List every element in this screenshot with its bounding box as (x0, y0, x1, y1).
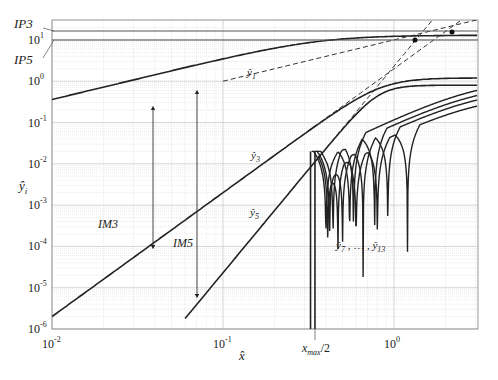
y-tick-label: 10-5 (28, 279, 47, 295)
y-tick-label: 10-4 (28, 237, 47, 253)
xmax-label: xmax/2 (301, 341, 330, 357)
y-tick-label: 100 (28, 72, 44, 88)
x-tick-label: 100 (384, 335, 400, 351)
x-tick-label: 10-1 (213, 335, 232, 351)
grid-lines (52, 20, 478, 329)
y1-label: ŷ1 (246, 66, 256, 81)
ip5-intercept-point (450, 30, 455, 35)
y5-label: ŷ5 (249, 206, 259, 221)
y-tick-label: 101 (28, 31, 44, 47)
x-axis-label: x̂ (238, 348, 245, 363)
curve-y3 (52, 78, 477, 317)
curve-y1 (52, 35, 477, 99)
intermodulation-chart: IP3 IP5 IM3 IM5 ŷ1 ŷ3 ŷ5 ŷ7 , … , ŷ13 ŷi… (0, 0, 498, 380)
ip3-label: IP3 (13, 16, 33, 31)
ip5-label: IP5 (13, 52, 33, 67)
x-tick-label: 10-2 (42, 335, 61, 351)
y-tick-label: 10-1 (28, 114, 47, 130)
y-tick-label: 10-3 (28, 196, 47, 212)
im5-label: IM5 (172, 236, 193, 250)
y-axis-label: ŷi (17, 178, 28, 196)
y-tick-label: 10-6 (28, 320, 47, 336)
y-tick-label: 10-2 (28, 155, 47, 171)
plot-frame (52, 20, 478, 329)
im3-label: IM3 (97, 217, 118, 231)
ip3-intercept-point (413, 38, 418, 43)
